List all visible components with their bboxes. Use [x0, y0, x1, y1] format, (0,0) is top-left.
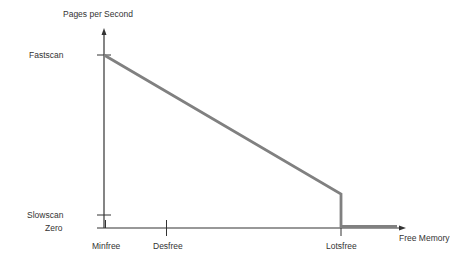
y-axis-arrow-icon — [102, 28, 107, 35]
x-axis-arrow-icon — [399, 226, 406, 231]
scan-rate-diagram — [0, 0, 475, 262]
zero-label: Zero — [45, 224, 62, 233]
minfree-label: Minfree — [92, 242, 120, 251]
desfree-label: Desfree — [153, 242, 183, 251]
lotsfree-label: Lotsfree — [326, 242, 357, 251]
slowscan-label: Slowscan — [27, 211, 63, 220]
scan-rate-curve — [104, 55, 397, 227]
fastscan-label: Fastscan — [29, 51, 64, 60]
y-axis-label: Pages per Second — [63, 10, 133, 19]
x-axis-label: Free Memory — [399, 234, 450, 243]
